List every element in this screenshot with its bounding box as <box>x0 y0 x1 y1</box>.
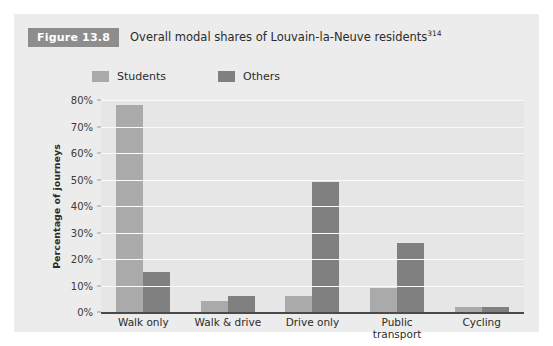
y-axis-tick-label: 50% <box>71 174 93 185</box>
gridline <box>101 206 524 207</box>
bar-others <box>143 272 170 312</box>
x-axis-label-line: Cycling <box>439 316 524 328</box>
x-axis-label: Cycling <box>439 316 524 340</box>
gridline <box>101 180 524 181</box>
gridline <box>101 100 524 101</box>
y-axis-ticks: 80%70%60%50%40%30%20%10%0% <box>65 100 97 312</box>
legend-label: Others <box>243 71 280 82</box>
bar-others <box>312 182 339 312</box>
x-axis-label: Walk & drive <box>186 316 271 340</box>
figure-caption-text: Overall modal shares of Louvain-la-Neuve… <box>130 30 427 44</box>
x-axis-label-line: transport <box>355 328 440 340</box>
y-axis-tick-label: 40% <box>71 201 93 212</box>
gridline <box>101 259 524 260</box>
x-axis-label-line: Drive only <box>270 316 355 328</box>
legend-swatch-icon <box>92 71 109 82</box>
x-axis-labels: Walk onlyWalk & driveDrive onlyPublictra… <box>101 316 524 340</box>
plot-area <box>101 100 524 312</box>
plot-wrapper: Percentage of journeys 80%70%60%50%40%30… <box>51 100 524 312</box>
y-axis-tick-label: 70% <box>71 121 93 132</box>
y-axis-title-text: Percentage of journeys <box>51 144 62 269</box>
y-axis-tick-label: 0% <box>77 307 93 318</box>
figure-number-badge: Figure 13.8 <box>28 28 119 47</box>
y-axis-tick-label: 60% <box>71 148 93 159</box>
y-axis-tick-label: 10% <box>71 280 93 291</box>
chart-legend: StudentsOthers <box>92 71 280 82</box>
legend-item-students: Students <box>92 71 166 82</box>
y-axis-tick-label: 80% <box>71 95 93 106</box>
y-axis-tick-label: 20% <box>71 254 93 265</box>
gridline <box>101 286 524 287</box>
x-axis-label-line: Walk only <box>101 316 186 328</box>
figure-panel: Figure 13.8 Overall modal shares of Louv… <box>14 14 539 332</box>
x-axis-label: Drive only <box>270 316 355 340</box>
legend-swatch-icon <box>218 71 235 82</box>
figure-header: Figure 13.8 Overall modal shares of Louv… <box>28 28 442 47</box>
figure-caption: Overall modal shares of Louvain-la-Neuve… <box>130 32 442 44</box>
x-axis-line <box>101 312 524 314</box>
x-axis-label-line: Walk & drive <box>186 316 271 328</box>
bar-others <box>228 296 255 312</box>
gridline <box>101 233 524 234</box>
y-axis-title: Percentage of journeys <box>49 100 63 312</box>
gridline <box>101 127 524 128</box>
figure-caption-footnote: 314 <box>427 29 441 38</box>
bar-students <box>285 296 312 312</box>
bar-others <box>397 243 424 312</box>
legend-item-others: Others <box>218 71 280 82</box>
x-axis-label: Walk only <box>101 316 186 340</box>
gridline <box>101 153 524 154</box>
bar-students <box>116 105 143 312</box>
x-axis-label: Publictransport <box>355 316 440 340</box>
bar-students <box>370 288 397 312</box>
y-axis-tick-label: 30% <box>71 227 93 238</box>
legend-label: Students <box>117 71 166 82</box>
bar-students <box>201 301 228 312</box>
x-axis-label-line: Public <box>355 316 440 328</box>
